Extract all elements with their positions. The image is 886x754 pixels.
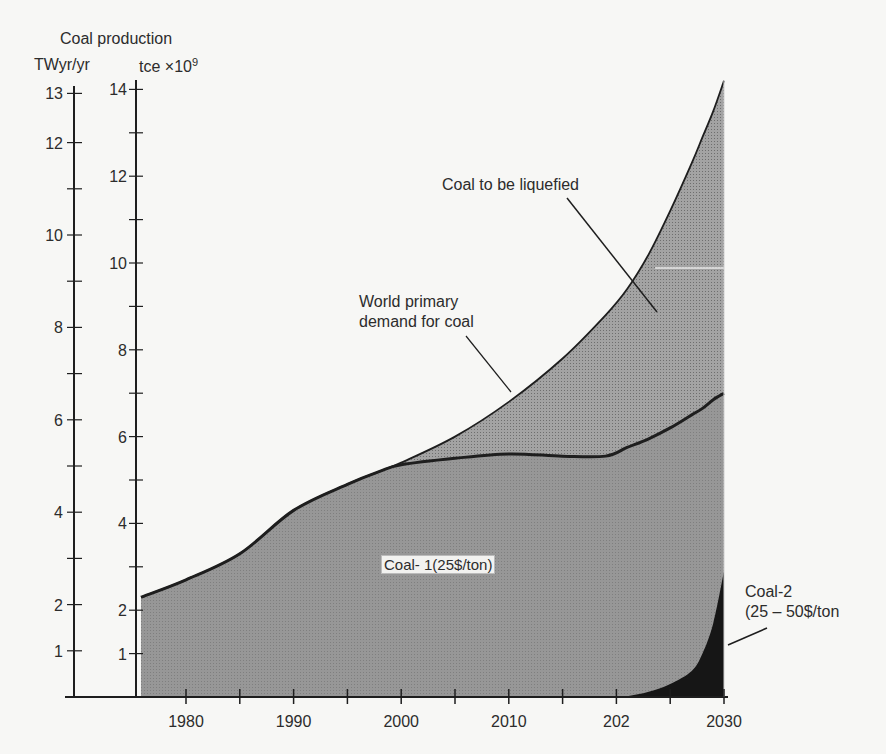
twyr-tick-label: 8 — [54, 319, 63, 336]
twyr-tick-label: 12 — [45, 135, 63, 152]
tce-tick-label: 1 — [118, 646, 127, 663]
x-tick-label: 1990 — [276, 713, 312, 730]
tce-tick-label: 2 — [118, 602, 127, 619]
plot-areas — [141, 81, 724, 697]
annotation-coal-2-line1: Coal-2 — [745, 582, 839, 602]
tce-tick-label: 4 — [118, 515, 127, 532]
twyr-tick-label: 13 — [45, 85, 63, 102]
leader-coal-2 — [728, 628, 767, 645]
right-axis-unit-exponent: 9 — [192, 56, 198, 68]
annotation-world-demand-line2: demand for coal — [359, 312, 474, 332]
twyr-tick-label: 1 — [54, 643, 63, 660]
x-tick-label: 2010 — [491, 713, 527, 730]
tce-tick-label: 6 — [118, 429, 127, 446]
annotation-world-demand: World primary demand for coal — [359, 292, 474, 332]
annotation-coal-2-line2: (25 – 50$/ton — [745, 602, 839, 622]
x-tick-label: 2000 — [383, 713, 419, 730]
x-tick-label: 202 — [603, 713, 630, 730]
left-axis-unit-label: TWyr/yr — [34, 56, 90, 74]
leader-demand — [466, 336, 511, 392]
tce-tick-label: 8 — [118, 342, 127, 359]
twyr-tick-label: 2 — [54, 597, 63, 614]
twyr-tick-label: 10 — [45, 227, 63, 244]
tce-tick-label: 10 — [109, 255, 127, 272]
tce-tick-label: 14 — [109, 81, 127, 98]
annotation-world-demand-line1: World primary — [359, 292, 474, 312]
annotation-coal-to-be-liquefied: Coal to be liquefied — [442, 176, 579, 194]
coal-production-chart: 1246810121412468101213198019902000201020… — [0, 0, 886, 754]
leader-liquefied — [567, 198, 657, 312]
annotation-coal-1: Coal- 1(25$/ton) — [381, 555, 495, 574]
right-axis-unit-text: tce ×10 — [139, 58, 192, 75]
right-axis-unit-label: tce ×109 — [139, 56, 198, 76]
tce-tick-label: 12 — [109, 168, 127, 185]
chart-title: Coal production — [60, 30, 172, 48]
twyr-tick-label: 4 — [54, 504, 63, 521]
annotation-coal-2: Coal-2 (25 – 50$/ton — [745, 582, 839, 622]
twyr-tick-label: 6 — [54, 412, 63, 429]
x-tick-label: 2030 — [706, 713, 742, 730]
x-tick-label: 1980 — [168, 713, 204, 730]
